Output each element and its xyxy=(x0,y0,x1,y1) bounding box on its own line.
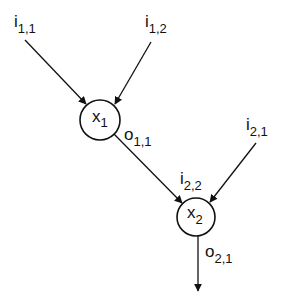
label-o21: o2,1 xyxy=(205,242,233,266)
label-o21-sub: 2,1 xyxy=(214,251,232,266)
label-i21-sub: 2,1 xyxy=(250,124,268,139)
node-x2: x2 xyxy=(177,198,215,236)
label-i11-sub: 1,1 xyxy=(18,21,36,36)
label-i21: i2,1 xyxy=(246,115,268,139)
label-i22: i2,2 xyxy=(180,169,202,193)
node-x1-subscript: 1 xyxy=(101,115,108,130)
node-x2-subscript: 2 xyxy=(196,212,203,227)
label-o21-main: o xyxy=(205,242,214,261)
label-i12-sub: 1,2 xyxy=(149,21,167,36)
edge-i21-to-x2 xyxy=(210,143,256,202)
label-i11: i1,1 xyxy=(14,12,36,36)
label-o11: o1,1 xyxy=(124,125,152,149)
edge-i12-to-x1 xyxy=(115,42,151,104)
label-i12: i1,2 xyxy=(145,12,167,36)
flow-diagram: x1 x2 i1,1 i1,2 o1,1 i2,1 i2,2 o2,1 xyxy=(0,0,289,307)
edge-i11-to-x1 xyxy=(25,40,86,104)
label-o11-main: o xyxy=(124,125,133,144)
label-o11-sub: 1,1 xyxy=(133,134,151,149)
node-x1: x1 xyxy=(80,100,120,140)
label-i22-sub: 2,2 xyxy=(184,178,202,193)
